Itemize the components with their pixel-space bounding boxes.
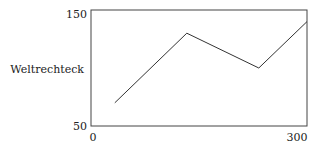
line-chart: 150 50 0 300 Weltrechteck — [0, 0, 324, 148]
plot-frame — [91, 10, 307, 126]
data-line — [115, 22, 307, 103]
x-tick-min: 0 — [90, 131, 97, 144]
y-tick-min: 50 — [73, 120, 87, 133]
y-axis-label: Weltrechteck — [10, 63, 84, 76]
x-tick-max: 300 — [287, 131, 308, 144]
y-tick-max: 150 — [66, 8, 87, 21]
